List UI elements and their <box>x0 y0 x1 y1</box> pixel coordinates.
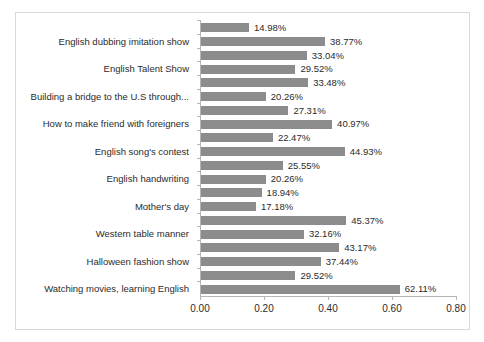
bar <box>201 51 307 60</box>
bar-value-label: 25.55% <box>283 161 320 171</box>
bar-row: 27.31% <box>201 104 456 118</box>
x-axis-tick-label: 0.40 <box>318 304 337 314</box>
y-axis-tick <box>197 281 201 282</box>
bar-row: 14.98% <box>201 21 456 35</box>
bar-value-label: 20.26% <box>266 92 303 102</box>
x-axis-tick <box>392 296 393 300</box>
bar <box>201 257 321 266</box>
bar <box>201 285 400 294</box>
bar <box>201 106 288 115</box>
bar-row: 62.11% <box>201 282 456 296</box>
bar-value-label: 33.04% <box>307 51 344 61</box>
category-label: How to make friend with foreigners <box>43 119 189 129</box>
y-axis-tick <box>197 20 201 21</box>
bar-row: 45.37% <box>201 214 456 228</box>
bar-row: 37.44% <box>201 255 456 269</box>
bar-row: 17.18% <box>201 200 456 214</box>
category-label: English song's contest <box>95 147 189 157</box>
bar-value-label: 27.31% <box>288 106 325 116</box>
y-axis-tick <box>197 75 201 76</box>
x-axis-tick <box>456 296 457 300</box>
bar-value-label: 33.48% <box>308 78 345 88</box>
y-axis-tick <box>197 116 201 117</box>
x-axis-tick <box>328 296 329 300</box>
bar-value-label: 18.94% <box>262 188 299 198</box>
x-axis-tick <box>200 296 201 300</box>
y-axis-tick <box>197 61 201 62</box>
x-axis-tick-label: 0.00 <box>190 304 209 314</box>
bar-value-label: 20.26% <box>266 174 303 184</box>
bar-value-label: 17.18% <box>256 202 293 212</box>
bar <box>201 37 325 46</box>
bar-row: 20.26% <box>201 172 456 186</box>
bar-row: 44.93% <box>201 145 456 159</box>
plot-area: 14.98%38.77%33.04%29.52%33.48%20.26%27.3… <box>200 21 456 296</box>
bar-row: 43.17% <box>201 241 456 255</box>
bar <box>201 271 295 280</box>
bar <box>201 216 346 225</box>
bar-rows: 14.98%38.77%33.04%29.52%33.48%20.26%27.3… <box>201 21 456 296</box>
category-axis-labels: English dubbing imitation showEnglish Ta… <box>16 21 196 296</box>
y-axis-tick <box>197 89 201 90</box>
y-axis-tick <box>197 226 201 227</box>
chart-container: English dubbing imitation showEnglish Ta… <box>15 12 470 330</box>
category-label: Building a bridge to the U.S through... <box>31 92 189 102</box>
bar-row: 40.97% <box>201 117 456 131</box>
x-axis-tick-label: 0.20 <box>254 304 273 314</box>
bar <box>201 161 283 170</box>
bar <box>201 243 339 252</box>
bar-row: 29.52% <box>201 62 456 76</box>
x-axis-tick-label: 0.60 <box>382 304 401 314</box>
bar <box>201 175 266 184</box>
bar-row: 33.48% <box>201 76 456 90</box>
x-axis-tick-label: 0.80 <box>446 304 465 314</box>
y-axis-tick <box>197 103 201 104</box>
y-axis-tick <box>197 213 201 214</box>
category-label: Western table manner <box>96 229 189 239</box>
y-axis-tick <box>197 268 201 269</box>
x-axis-tick <box>264 296 265 300</box>
bar-value-label: 44.93% <box>345 147 382 157</box>
bar-value-label: 40.97% <box>332 119 369 129</box>
bar-value-label: 38.77% <box>325 37 362 47</box>
category-label: Mother's day <box>135 202 189 212</box>
bar <box>201 202 256 211</box>
bar <box>201 23 249 32</box>
y-axis-tick <box>197 199 201 200</box>
bar-row: 20.26% <box>201 90 456 104</box>
y-axis-tick <box>197 144 201 145</box>
bar-row: 25.55% <box>201 159 456 173</box>
bar <box>201 92 266 101</box>
bar <box>201 147 345 156</box>
bar-row: 22.47% <box>201 131 456 145</box>
y-axis-tick <box>197 130 201 131</box>
bar-value-label: 22.47% <box>273 133 310 143</box>
bar-value-label: 29.52% <box>295 271 332 281</box>
y-axis-tick <box>197 240 201 241</box>
bar-row: 32.16% <box>201 227 456 241</box>
bar-row: 33.04% <box>201 49 456 63</box>
category-label: English dubbing imitation show <box>59 37 189 47</box>
bar-value-label: 14.98% <box>249 23 286 33</box>
y-axis-tick <box>197 171 201 172</box>
bar-value-label: 43.17% <box>339 243 376 253</box>
bar-row: 29.52% <box>201 269 456 283</box>
bar <box>201 188 262 197</box>
bar <box>201 120 332 129</box>
bar-value-label: 32.16% <box>304 229 341 239</box>
bar <box>201 230 304 239</box>
y-axis-tick <box>197 185 201 186</box>
category-label: Watching movies, learning English <box>44 284 189 294</box>
y-axis-tick <box>197 254 201 255</box>
bar-value-label: 62.11% <box>400 284 437 294</box>
category-label: English handwriting <box>107 174 189 184</box>
y-axis-tick <box>197 158 201 159</box>
bar <box>201 65 295 74</box>
bar-row: 38.77% <box>201 35 456 49</box>
bar-value-label: 37.44% <box>321 257 358 267</box>
bar-value-label: 45.37% <box>346 216 383 226</box>
bar-row: 18.94% <box>201 186 456 200</box>
y-axis-tick <box>197 34 201 35</box>
bar <box>201 78 308 87</box>
bar-value-label: 29.52% <box>295 64 332 74</box>
